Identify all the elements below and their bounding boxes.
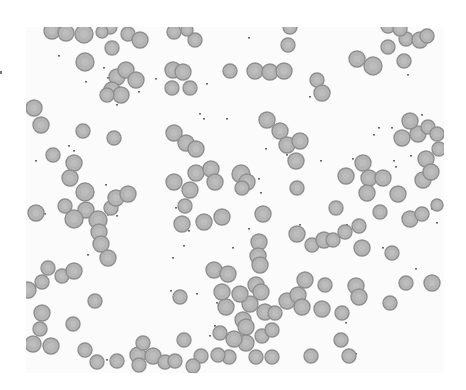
platelet-debris [103,67,105,69]
cell-pallor [218,288,225,295]
cell-pallor [112,194,119,201]
cell-pallor [401,58,407,64]
cell-pallor [39,279,45,285]
cell-pallor [179,68,186,75]
cell-pallor [124,190,131,197]
cell-pallor [377,209,383,215]
cell-pallor [170,129,177,136]
platelet-debris [209,335,211,337]
cell-pallor [48,27,55,34]
cell-pallor [82,206,89,213]
cell-pallor [394,190,401,197]
cell-pallor [210,266,217,273]
cell-pallor [70,159,77,166]
cell-pallor [224,270,231,277]
cell-pallor [355,293,362,300]
cell-pallor [269,327,275,333]
cell-pallor [132,76,139,83]
cell-pallor [117,91,124,98]
cell-pallor [190,363,196,369]
cell-pallor [406,215,413,222]
platelet-debris [410,155,412,157]
cell-pallor [385,44,391,50]
cell-pallor [298,303,305,310]
platelet-debris [68,145,70,147]
cell-pallor [406,117,413,124]
cell-pallor [424,33,430,39]
cell-pallor [215,352,221,358]
cell-pallor [346,353,352,359]
cell-pallor [253,354,259,360]
platelet-debris [116,215,118,217]
cell-pallor [427,168,434,175]
cell-pallor [428,279,435,286]
cell-pallor [425,124,431,130]
cell-pallor [256,261,263,268]
cell-pallor [259,210,266,217]
cell-pallor [66,174,73,181]
cell-pallor [171,29,177,35]
cell-pallor [276,127,283,134]
cell-pallor [339,310,345,316]
cell-pallor [92,298,98,304]
cell-pallor [403,36,409,42]
cell-pallor [172,358,178,364]
cell-pallor [309,242,315,248]
platelet-debris [85,81,87,83]
cell-pallor [227,68,233,74]
cell-pallor [181,337,187,343]
cell-pallor [97,240,104,247]
cell-pallor [80,128,86,134]
platelet-debris [188,230,190,232]
cell-pallor [301,276,308,283]
platelet-debris [106,359,108,361]
cell-pallor [80,30,88,38]
cell-pallor [182,203,188,209]
platelet-debris [116,104,118,106]
cell-pallor [62,203,68,209]
cell-pallor [177,294,183,300]
platelet-debris [183,245,185,247]
platelet-debris [216,302,218,304]
platelet-debris [155,78,157,80]
cell-pallor [125,31,131,37]
cell-pallor [387,300,393,306]
platelet-debris [170,290,172,292]
cell-pallor [242,323,249,330]
cell-pallor [109,45,115,51]
cell-pallor [239,185,245,191]
platelet-debris [172,257,174,259]
platelet-debris [382,247,384,249]
cell-pallor [104,254,111,261]
cell-pallor [255,238,262,245]
cell-pallor [222,303,229,310]
cell-pallor [369,62,377,70]
platelet-debris [73,150,75,152]
cell-pallor [322,282,328,288]
cell-pallor [403,280,409,286]
platelet-debris [175,207,177,209]
cell-pallor [272,310,278,316]
cell-pallor [37,121,44,128]
cell-pallor [251,67,258,74]
platelet-debris [105,184,107,186]
cell-pallor [363,189,370,196]
cell-pallor [242,339,249,346]
platelet-debris [196,293,198,295]
cell-pallor [230,335,237,342]
cell-pallor [314,77,320,83]
cell-pallor [207,165,214,172]
cell-pallor [149,352,156,359]
platelet-debris [373,134,375,136]
cell-pallor [198,353,204,359]
cell-pallor [178,220,185,227]
cell-pallor [136,36,143,43]
cell-pallor [30,104,37,111]
platelet-debris [436,222,438,224]
cell-pallor [389,250,395,256]
platelet-debris [203,118,205,120]
cell-pallor [38,309,45,316]
cell-pallor [104,92,110,98]
cell-pallor [342,229,348,235]
cell-pallor [32,209,39,216]
